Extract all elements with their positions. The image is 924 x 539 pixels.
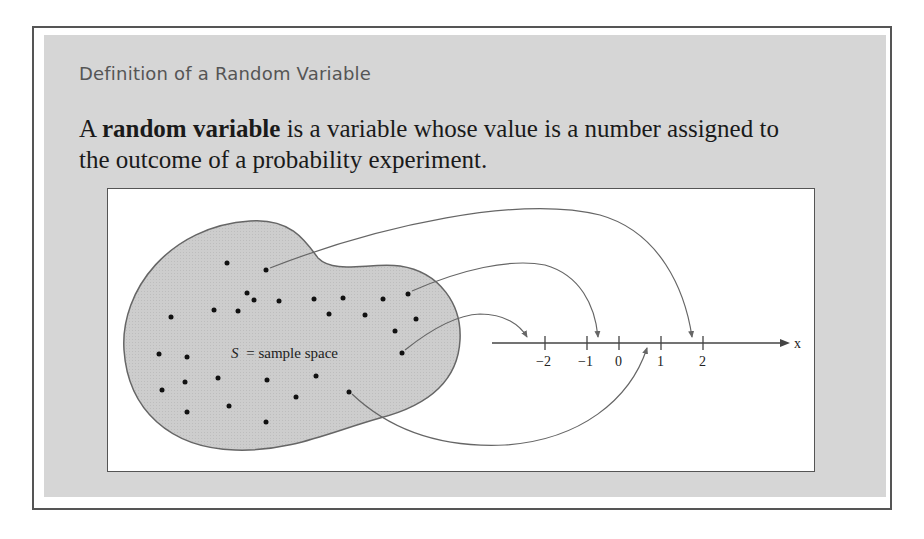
tick-label-minus-2: −2: [536, 354, 551, 369]
diagram-svg: −2 −1 0 1 2 x S = sample space: [0, 0, 924, 539]
sample-space-label: S = sample space: [231, 345, 338, 361]
tick-label-0: 0: [615, 354, 622, 369]
axis-label-x: x: [794, 336, 801, 351]
tick-label-2: 2: [699, 354, 706, 369]
number-line-arrowhead: [780, 339, 790, 347]
sample-space-text: = sample space: [246, 345, 338, 361]
sample-space-symbol: S: [231, 345, 239, 361]
tick-label-minus-1: −1: [578, 354, 593, 369]
tick-label-1: 1: [657, 354, 664, 369]
sample-space-blob: [124, 221, 460, 450]
